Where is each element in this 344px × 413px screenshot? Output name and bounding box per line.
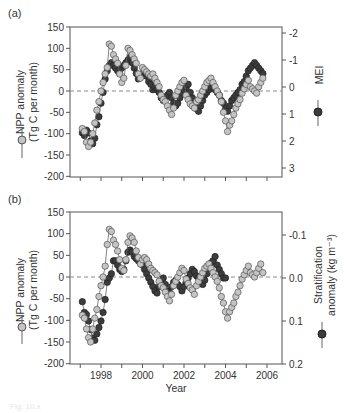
data-point — [154, 272, 160, 278]
data-point — [94, 107, 100, 113]
figure: (a) 150100500-50-100-150-200 -2-10123 NP… — [0, 0, 344, 413]
data-point — [114, 248, 120, 254]
data-point — [81, 128, 87, 134]
data-point — [231, 300, 237, 306]
y-tick-label: 150 — [47, 22, 64, 33]
data-point — [260, 75, 266, 81]
data-point — [102, 263, 108, 269]
figure-caption: Fig. 10.x — [10, 402, 41, 411]
panel-a-label: (a) — [8, 7, 21, 19]
x-tick-label: 2006 — [256, 370, 279, 381]
data-point — [96, 293, 102, 299]
data-point — [121, 267, 127, 273]
panel-a-x-axis — [80, 177, 267, 181]
data-point — [220, 109, 226, 115]
y-tick-label: 150 — [47, 207, 64, 218]
data-point — [245, 77, 251, 83]
y-tick-label: -50 — [50, 107, 65, 118]
data-point — [90, 130, 96, 136]
data-point — [96, 114, 102, 120]
panel-a-y2-axis: -2-10123 — [282, 28, 298, 174]
npp-legend-marker-icon — [18, 136, 26, 144]
data-point — [170, 105, 176, 111]
panel-a-ylabel-line2: (Tg C per month) — [27, 62, 39, 142]
data-point — [98, 282, 104, 288]
npp-legend-marker-icon — [18, 323, 26, 331]
data-point — [154, 290, 160, 296]
data-point — [81, 315, 87, 321]
data-point — [121, 75, 127, 81]
data-point — [218, 98, 224, 104]
y2-tick-label: 0 — [289, 82, 295, 93]
data-point — [258, 261, 264, 267]
data-point — [90, 326, 96, 332]
data-point — [216, 285, 222, 291]
data-point — [212, 253, 218, 259]
y-tick-label: 50 — [53, 64, 65, 75]
data-point — [220, 300, 226, 306]
data-point — [133, 248, 139, 254]
data-point — [137, 75, 143, 81]
data-point — [235, 289, 241, 295]
data-point — [123, 62, 129, 68]
data-point — [108, 43, 114, 49]
data-point — [102, 71, 108, 77]
data-point — [112, 241, 118, 247]
x-axis-title: Year — [165, 382, 187, 394]
data-point — [168, 291, 174, 297]
stratification-legend-marker-icon — [318, 330, 326, 338]
panel-a-y-axis: 150100500-50-100-150-200 — [44, 22, 70, 182]
data-point — [104, 64, 110, 70]
data-point — [108, 271, 114, 277]
panel-b-y-axis: 150100500-50-100-150-200 — [44, 207, 70, 370]
y-tick-label: -100 — [44, 128, 64, 139]
y-tick-label: -100 — [44, 315, 64, 326]
panel-a-series — [79, 41, 266, 150]
y2-tick-label: 1 — [289, 109, 295, 120]
data-point — [96, 324, 102, 330]
y2-tick-label: -0.1 — [289, 230, 307, 241]
y2-tick-label: -2 — [289, 28, 298, 39]
data-point — [253, 90, 259, 96]
y-tick-label: -200 — [44, 171, 64, 182]
data-point — [94, 306, 100, 312]
y-tick-label: -200 — [44, 358, 64, 369]
data-point — [131, 239, 137, 245]
panel-a-y2label: MEI — [313, 66, 325, 85]
data-point — [87, 339, 93, 345]
panel-b-x-axis: 19982000200220042006 — [80, 364, 278, 381]
data-point — [123, 256, 129, 262]
data-point — [216, 92, 222, 98]
panel-b-y2label-line1: Stratification — [312, 246, 324, 304]
x-tick-label: 2000 — [131, 370, 154, 381]
data-point — [166, 298, 172, 304]
data-point — [229, 118, 235, 124]
data-point — [218, 293, 224, 299]
y-tick-label: -50 — [50, 293, 65, 304]
data-point — [231, 111, 237, 117]
data-point — [83, 326, 89, 332]
data-point — [214, 278, 220, 284]
data-point — [87, 139, 93, 145]
y-tick-label: 0 — [58, 86, 64, 97]
data-point — [191, 105, 197, 111]
data-point — [237, 282, 243, 288]
panel-b-ylabel-line1: NPP anomaly — [14, 257, 26, 322]
panel-b-y2-axis: -0.10.00.10.2 — [282, 230, 307, 370]
data-point — [237, 96, 243, 102]
y2-tick-label: 2 — [289, 136, 295, 147]
data-point — [100, 309, 106, 315]
data-point — [108, 228, 114, 234]
data-point — [102, 296, 108, 302]
data-point — [100, 79, 106, 85]
data-point — [100, 274, 106, 280]
data-point — [224, 128, 230, 134]
y-tick-label: 50 — [53, 250, 65, 261]
panel-b-y2label-line2: anomaly (kg m⁻³) — [325, 234, 337, 316]
data-point — [92, 315, 98, 321]
data-point — [104, 241, 110, 247]
panel-b-series — [79, 226, 266, 345]
y-tick-label: -150 — [44, 150, 64, 161]
x-tick-label: 2002 — [173, 370, 196, 381]
x-tick-label: 2004 — [214, 370, 237, 381]
